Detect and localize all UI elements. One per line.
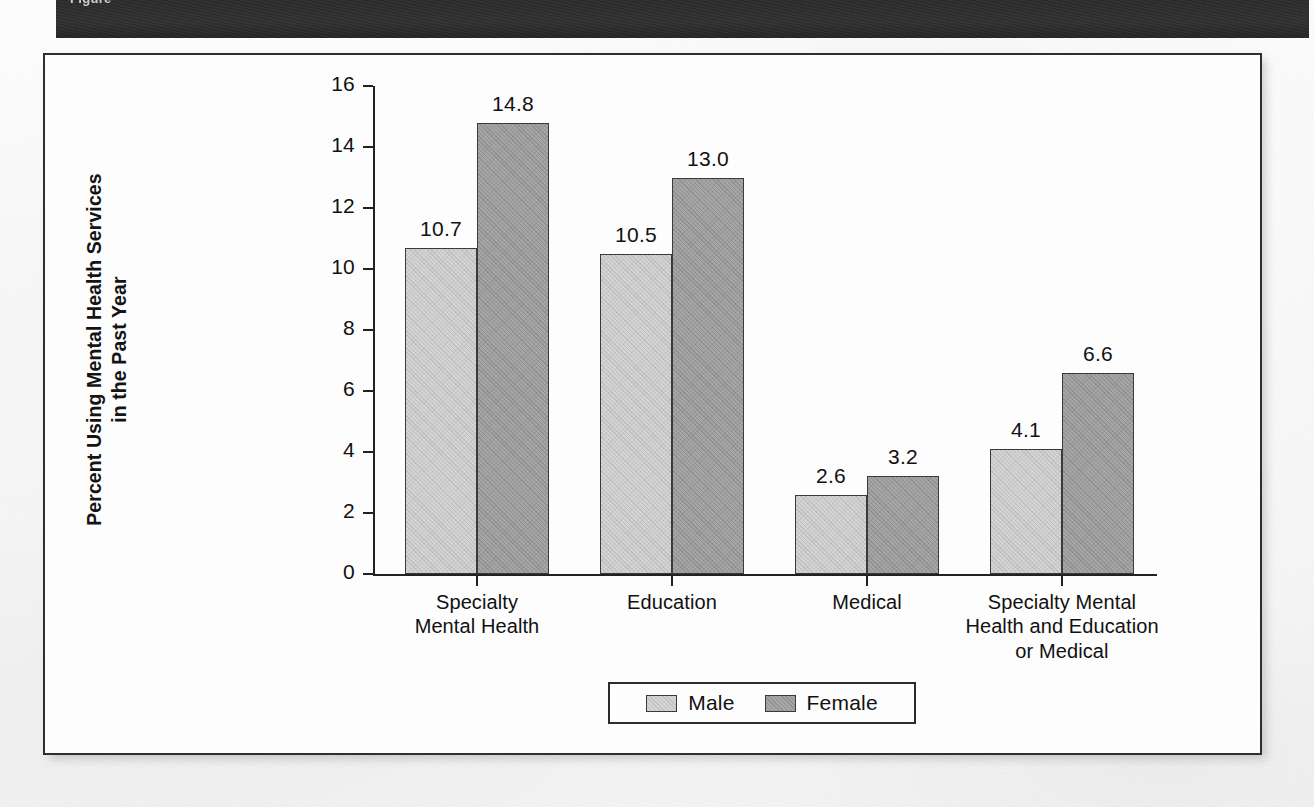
x-axis-tick xyxy=(866,576,868,586)
bar-value-label: 14.8 xyxy=(461,92,565,116)
legend-item-female[interactable]: Female xyxy=(765,691,878,715)
bars-layer: 10.714.810.513.02.63.24.16.6 xyxy=(45,55,1264,575)
figure-frame: Percent Using Mental Health Services in … xyxy=(43,53,1262,755)
x-axis-tick xyxy=(1061,576,1063,586)
category-label-line: Specialty xyxy=(367,590,587,614)
bar-female-4[interactable] xyxy=(1062,373,1134,574)
bar-value-label: 13.0 xyxy=(656,147,760,171)
x-axis-category-label: Medical xyxy=(757,590,977,614)
chart-legend: Male Female xyxy=(608,682,916,724)
bar-male-2[interactable] xyxy=(600,254,672,574)
legend-swatch-female-icon xyxy=(765,695,796,712)
bar-male-3[interactable] xyxy=(795,495,867,574)
x-axis-category-label: Specialty MentalHealth and Educationor M… xyxy=(952,590,1172,663)
bar-female-2[interactable] xyxy=(672,178,744,575)
x-axis-tick xyxy=(671,576,673,586)
category-label-line: Education xyxy=(562,590,782,614)
x-axis-tick xyxy=(476,576,478,586)
bar-male-1[interactable] xyxy=(405,248,477,574)
legend-label-male: Male xyxy=(688,691,734,715)
x-axis-category-label: SpecialtyMental Health xyxy=(367,590,587,639)
bar-male-4[interactable] xyxy=(990,449,1062,574)
bar-female-1[interactable] xyxy=(477,123,549,574)
x-axis-category-label: Education xyxy=(562,590,782,614)
bar-value-label: 3.2 xyxy=(851,445,955,469)
category-label-line: Health and Education xyxy=(952,614,1172,638)
bar-chart: Percent Using Mental Health Services in … xyxy=(45,55,1260,753)
category-label-line: Mental Health xyxy=(367,614,587,638)
bar-female-3[interactable] xyxy=(867,476,939,574)
top-banner: Figure xyxy=(56,0,1309,38)
legend-item-male[interactable]: Male xyxy=(646,691,734,715)
bar-value-label: 6.6 xyxy=(1046,342,1150,366)
legend-label-female: Female xyxy=(807,691,878,715)
category-label-line: Specialty Mental xyxy=(952,590,1172,614)
top-banner-label: Figure xyxy=(70,0,112,6)
legend-swatch-male-icon xyxy=(646,695,677,712)
category-label-line: or Medical xyxy=(952,639,1172,663)
category-label-line: Medical xyxy=(757,590,977,614)
